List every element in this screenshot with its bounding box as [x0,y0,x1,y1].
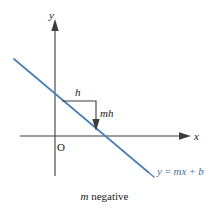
y-axis-label: y [49,10,54,21]
plotted-line [14,59,148,172]
run-label: h [75,87,81,98]
figure-canvas [0,0,209,210]
equation-intercept: b [198,165,204,177]
equation-slope: m [174,165,182,177]
origin-label: O [57,142,65,153]
caption-word: negative [91,190,128,202]
figure-caption: m negative [0,190,209,202]
equation-leader-line [148,172,154,177]
equation-label: y = mx + b [157,166,204,177]
linear-function-figure: y x O h mh y = mx + b m negative [0,0,209,210]
rise-label: mh [100,108,113,119]
x-axis-label: x [194,131,199,142]
x-axis-arrowhead-icon [179,132,191,139]
